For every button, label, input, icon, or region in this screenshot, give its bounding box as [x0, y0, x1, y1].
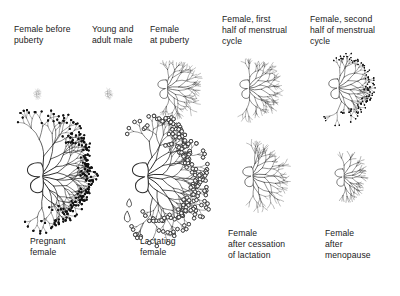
alveolus	[127, 126, 130, 129]
duct-branch	[156, 191, 157, 203]
duct-branch	[268, 78, 274, 83]
duct-branch	[192, 75, 196, 76]
duct-branch	[142, 134, 149, 142]
duct-branch	[354, 74, 362, 75]
duct-branch	[342, 158, 345, 165]
lobular-bud	[26, 109, 28, 111]
alveolus	[203, 174, 206, 177]
duct-branch	[107, 97, 108, 99]
lobular-bud	[64, 142, 66, 144]
alveolus	[194, 142, 197, 145]
lobular-bud	[357, 59, 358, 60]
duct-branch	[156, 134, 160, 145]
duct-branch	[26, 110, 27, 118]
duct-branch	[283, 183, 288, 185]
lobular-bud	[71, 202, 73, 204]
lobular-bud	[74, 201, 76, 203]
alveolus	[191, 167, 194, 170]
alveolus	[177, 215, 180, 218]
duct-branch	[259, 96, 268, 97]
duct-branch	[162, 179, 173, 188]
duct-branch	[109, 91, 111, 92]
duct-branch	[156, 211, 158, 217]
lobular-bud	[76, 123, 78, 125]
duct-branch	[76, 166, 82, 167]
lobular-bud	[90, 166, 92, 168]
lobular-bud	[57, 219, 59, 221]
lobular-bud	[65, 217, 67, 219]
lobular-bud	[86, 169, 88, 171]
alveolus	[138, 119, 141, 122]
lobular-bud	[368, 79, 369, 80]
lobular-bud	[51, 209, 53, 211]
lobular-bud	[349, 112, 350, 113]
duct-branch	[279, 181, 280, 186]
duct-branch	[190, 109, 196, 112]
duct-branch	[275, 177, 279, 181]
duct-branch	[238, 114, 243, 116]
duct-branch	[259, 195, 265, 197]
duct-branch	[41, 195, 42, 208]
duct-branch	[250, 196, 253, 202]
duct-branch	[346, 64, 353, 67]
duct-branch	[351, 101, 355, 107]
duct-branch	[188, 101, 191, 102]
duct-branch	[271, 185, 272, 193]
lobular-bud	[24, 221, 26, 223]
alveolus	[159, 219, 162, 222]
lobular-bud	[368, 77, 369, 78]
duct-branch	[279, 163, 283, 166]
alveolus	[165, 231, 168, 234]
lobular-bud	[45, 232, 47, 234]
alveolus	[169, 142, 172, 145]
alveolus	[181, 203, 184, 206]
alveolus	[125, 132, 128, 135]
alveolus	[205, 202, 208, 205]
duct-branch	[344, 160, 350, 166]
lobular-bud	[83, 162, 85, 164]
alveolus	[147, 241, 150, 244]
duct-branch	[187, 81, 194, 82]
duct-branch	[152, 198, 162, 209]
duct-branch	[168, 65, 170, 70]
lobular-bud	[84, 174, 86, 176]
lobular-bud	[349, 59, 350, 60]
alveolus	[206, 208, 209, 211]
duct-branch	[38, 94, 40, 95]
lobular-bud	[87, 183, 89, 185]
duct-branch	[37, 208, 42, 217]
lobular-bud	[82, 137, 84, 139]
duct-branch	[271, 203, 275, 209]
duct-branch	[358, 160, 364, 163]
duct-branch	[347, 196, 349, 202]
alveolus	[141, 210, 144, 213]
duct-branch	[358, 157, 361, 163]
duct-branch	[354, 192, 359, 195]
lobular-bud	[77, 138, 79, 140]
milk-droplet	[124, 211, 130, 222]
duct-branch	[265, 162, 272, 163]
lobular-bud	[87, 173, 89, 175]
lobular-bud	[335, 125, 336, 126]
duct-branch	[175, 71, 180, 72]
lobular-bud	[85, 148, 87, 150]
lobular-bud	[69, 137, 71, 139]
lobular-bud	[47, 120, 49, 122]
lobular-bud	[369, 95, 370, 96]
duct-branch	[168, 70, 169, 78]
duct-branch	[275, 80, 280, 82]
nipple-and-lactiferous-sinus	[105, 92, 108, 97]
duct-branch	[353, 178, 359, 183]
lobular-bud	[373, 92, 374, 93]
duct-branch	[249, 202, 250, 207]
lobular-bud	[78, 125, 80, 127]
duct-branch	[262, 155, 270, 157]
duct-branch	[270, 95, 274, 100]
duct-branch	[359, 176, 365, 177]
duct-branch	[181, 170, 188, 171]
lobular-bud	[92, 181, 94, 183]
alveolus	[194, 198, 197, 201]
alveolus	[160, 120, 163, 123]
nipple-and-lactiferous-sinus	[158, 80, 168, 99]
lobular-bud	[361, 112, 362, 113]
